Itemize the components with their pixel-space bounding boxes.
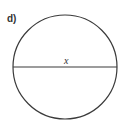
- diameter-label: x: [64, 55, 68, 66]
- circle-diagram: [0, 0, 120, 129]
